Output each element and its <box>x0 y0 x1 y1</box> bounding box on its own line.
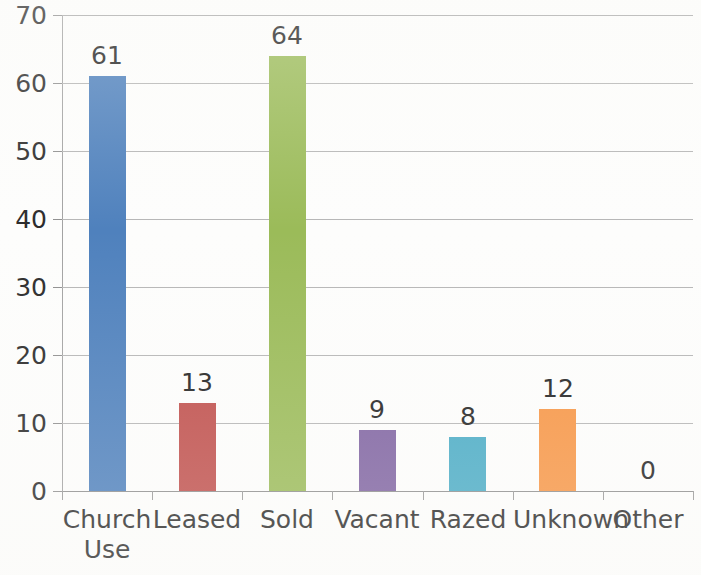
bar-church-use[interactable] <box>89 76 126 491</box>
y-axis-label-60: 60 <box>0 71 47 96</box>
x-axis-tick <box>603 491 604 500</box>
y-axis-label-10: 10 <box>0 411 47 436</box>
bar-chart: 70 60 50 40 30 20 10 0 61136498120 Churc… <box>0 0 701 575</box>
bar-sold[interactable] <box>269 56 306 491</box>
category-label-vacant: Vacant <box>332 505 422 535</box>
gridline-70 <box>62 15 693 16</box>
value-label-vacant: 9 <box>332 397 422 422</box>
value-label-other: 0 <box>603 458 693 483</box>
gridline-30 <box>62 287 693 288</box>
y-tick-70 <box>53 15 62 16</box>
x-axis-tick <box>332 491 333 500</box>
y-tick-20 <box>53 355 62 356</box>
value-label-sold: 64 <box>242 23 332 48</box>
category-label-other: Other <box>603 505 693 535</box>
bar-unknown[interactable] <box>539 409 576 491</box>
y-axis-label-0: 0 <box>0 479 47 504</box>
gridline-60 <box>62 83 693 84</box>
value-label-razed: 8 <box>423 404 513 429</box>
bar-leased[interactable] <box>179 403 216 491</box>
y-axis-label-30: 30 <box>0 275 47 300</box>
y-axis-label-70: 70 <box>0 3 47 28</box>
x-axis-tick <box>152 491 153 500</box>
gridline-50 <box>62 151 693 152</box>
y-tick-60 <box>53 83 62 84</box>
x-axis-tick <box>693 491 694 500</box>
category-label-leased: Leased <box>152 505 242 535</box>
category-label-church-use: Church Use <box>62 505 152 565</box>
y-tick-50 <box>53 151 62 152</box>
x-axis-tick <box>423 491 424 500</box>
y-axis-label-40: 40 <box>0 207 47 232</box>
bar-vacant[interactable] <box>359 430 396 491</box>
value-label-church-use: 61 <box>62 43 152 68</box>
x-axis-line <box>62 491 694 492</box>
gridline-20 <box>62 355 693 356</box>
category-label-razed: Razed <box>423 505 513 535</box>
bar-razed[interactable] <box>449 437 486 491</box>
y-tick-0 <box>53 491 62 492</box>
y-tick-30 <box>53 287 62 288</box>
y-axis-label-20: 20 <box>0 343 47 368</box>
y-axis-label-50: 50 <box>0 139 47 164</box>
category-label-unknown: Unknown <box>513 505 603 535</box>
value-label-unknown: 12 <box>513 376 603 401</box>
x-axis-tick <box>242 491 243 500</box>
gridline-40 <box>62 219 693 220</box>
value-label-leased: 13 <box>152 370 242 395</box>
y-tick-10 <box>53 423 62 424</box>
y-tick-40 <box>53 219 62 220</box>
category-label-sold: Sold <box>242 505 332 535</box>
x-axis-tick <box>513 491 514 500</box>
x-axis-tick <box>62 491 63 500</box>
